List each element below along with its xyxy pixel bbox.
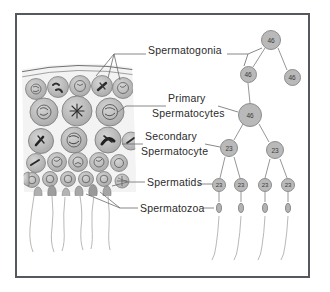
- lineage-sperm-tails: [212, 216, 288, 260]
- node-secondary-spermatocyte-right: 23: [266, 141, 284, 159]
- sperm-head-2: [238, 203, 244, 213]
- node-secondary-spermatocyte-left: 23: [220, 139, 238, 157]
- sperm-head-1: [216, 203, 222, 213]
- label-primary-spermatocytes-line1: Primary: [168, 92, 206, 104]
- sperm-tails-left: [30, 195, 110, 252]
- node-spermatid-4: 23: [281, 178, 295, 192]
- tissue-section: [20, 63, 140, 259]
- node-spermatogonium-left: 46: [240, 66, 257, 83]
- label-spermatozoa: Spermatozoa: [140, 202, 205, 214]
- primary-spermatocyte-cells: [30, 96, 124, 126]
- spermatogenesis-figure: Spermatogonia Primary Spermatocytes Seco…: [0, 0, 330, 292]
- label-secondary-spermatocyte-line1: Secondary: [145, 130, 197, 142]
- label-secondary-spermatocyte-line2: Spermatocyte: [141, 145, 208, 157]
- node-primary-spermatocyte: 46: [238, 103, 262, 127]
- label-spermatids: Spermatids: [147, 176, 202, 188]
- node-spermatogonium-right: 46: [284, 69, 301, 86]
- node-spermatid-2: 23: [234, 178, 248, 192]
- spermatozoa-cells: [34, 185, 111, 260]
- node-spermatid-1: 23: [212, 178, 226, 192]
- sperm-head-3: [262, 203, 268, 213]
- node-spermatid-3: 23: [258, 178, 272, 192]
- label-primary-spermatocytes-line2: Spermatocytes: [152, 107, 225, 119]
- sperm-head-4: [285, 203, 291, 213]
- node-spermatogonium-top: 46: [261, 30, 281, 50]
- label-spermatogonia: Spermatogonia: [148, 44, 222, 56]
